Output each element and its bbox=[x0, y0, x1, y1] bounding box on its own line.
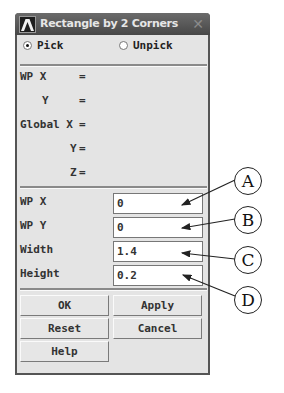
height-input[interactable] bbox=[113, 265, 203, 286]
separator bbox=[20, 288, 207, 291]
pick-radio[interactable]: Pick bbox=[23, 39, 64, 52]
help-button[interactable]: Help bbox=[20, 341, 109, 362]
pick-label: Pick bbox=[37, 39, 64, 52]
readout-equals: = bbox=[79, 142, 86, 155]
readout-global-y-label: Y bbox=[70, 142, 77, 155]
readout-equals: = bbox=[79, 70, 86, 83]
callout-b: B bbox=[234, 206, 262, 234]
ansys-logo-icon bbox=[19, 16, 36, 33]
readout-wp-y-label: Y bbox=[42, 94, 49, 107]
radio-selected-icon[interactable] bbox=[23, 41, 32, 50]
callout-a: A bbox=[234, 167, 262, 195]
readout-global-x-label: Global X bbox=[20, 118, 73, 131]
width-label: Width bbox=[20, 243, 53, 256]
radio-unselected-icon[interactable] bbox=[119, 41, 128, 50]
wp-x-input[interactable] bbox=[113, 193, 203, 214]
readout-global-z-label: Z bbox=[70, 166, 77, 179]
apply-button[interactable]: Apply bbox=[113, 295, 202, 316]
reset-button[interactable]: Reset bbox=[20, 318, 109, 339]
wp-y-label: WP Y bbox=[20, 219, 47, 232]
pick-mode-group: Pick Unpick bbox=[21, 39, 206, 57]
callout-d: D bbox=[234, 286, 262, 314]
wp-x-label: WP X bbox=[20, 195, 47, 208]
callout-c: C bbox=[234, 246, 262, 274]
height-label: Height bbox=[20, 267, 60, 280]
ok-button[interactable]: OK bbox=[20, 295, 109, 316]
separator bbox=[20, 64, 207, 67]
readout-equals: = bbox=[79, 118, 86, 131]
wp-y-input[interactable] bbox=[113, 217, 203, 238]
dialog-title: Rectangle by 2 Corners bbox=[40, 17, 178, 30]
rectangle-by-2-corners-dialog: Rectangle by 2 Corners ✕ Pick Unpick WP … bbox=[15, 13, 210, 375]
readout-wp-x-label: WP X bbox=[20, 70, 47, 83]
separator bbox=[20, 186, 207, 189]
readout-equals: = bbox=[79, 94, 86, 107]
close-icon[interactable]: ✕ bbox=[192, 15, 204, 33]
title-bar[interactable]: Rectangle by 2 Corners ✕ bbox=[15, 13, 210, 35]
readout-equals: = bbox=[79, 166, 86, 179]
width-input[interactable] bbox=[113, 241, 203, 262]
unpick-radio[interactable]: Unpick bbox=[119, 39, 173, 52]
cancel-button[interactable]: Cancel bbox=[113, 318, 202, 339]
unpick-label: Unpick bbox=[133, 39, 173, 52]
